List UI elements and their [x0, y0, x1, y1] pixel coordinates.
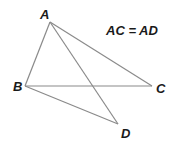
- point-label-c: C: [156, 81, 166, 96]
- segment-ab: [25, 22, 50, 86]
- point-label-a: A: [39, 7, 49, 22]
- equation-label: AC = AD: [105, 23, 158, 38]
- diagram-canvas: ABCD AC = AD: [0, 0, 171, 145]
- point-label-d: D: [121, 126, 131, 141]
- segment-bd: [25, 86, 118, 124]
- point-label-b: B: [13, 79, 22, 94]
- triangle-figure: ABCD AC = AD: [0, 0, 171, 145]
